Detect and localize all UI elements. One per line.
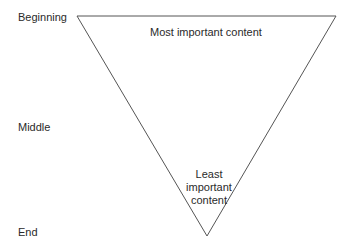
- least-line: Least: [180, 168, 238, 181]
- label-beginning: Beginning: [18, 11, 67, 24]
- important-line: important: [180, 181, 238, 194]
- label-middle: Middle: [18, 121, 50, 134]
- most-important-content-text: Most important content: [150, 26, 262, 39]
- least-important-content-text: Least important content: [180, 168, 238, 207]
- content-line: content: [180, 194, 238, 207]
- label-end: End: [18, 226, 38, 239]
